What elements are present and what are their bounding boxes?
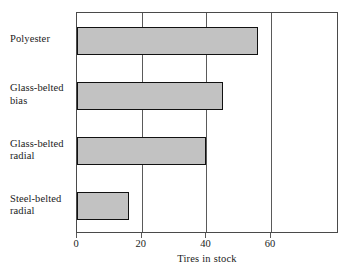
- category-label-glass-belted-radial: Glass-beltedradial: [10, 138, 74, 163]
- tick-label-20: 20: [126, 238, 156, 250]
- category-label-line: radial: [10, 150, 74, 163]
- plot-area: [76, 12, 338, 233]
- bar-glass-belted-radial: [77, 137, 206, 165]
- category-label-polyester: Polyester: [10, 33, 74, 46]
- bar-steel-belted-radial: [77, 192, 129, 220]
- tick-label-0: 0: [61, 238, 91, 250]
- x-axis-title: Tires in stock: [76, 253, 338, 264]
- category-label-line: Steel-belted: [10, 193, 74, 206]
- bar-polyester: [77, 27, 258, 55]
- category-label-line: Polyester: [10, 33, 74, 46]
- tick-label-40: 40: [190, 238, 220, 250]
- category-label-line: Glass-belted: [10, 82, 74, 95]
- category-label-line: bias: [10, 95, 74, 108]
- category-label-steel-belted-radial: Steel-beltedradial: [10, 193, 74, 218]
- bar-glass-belted-bias: [77, 82, 223, 110]
- bar-chart: Polyester Glass-beltedbias Glass-beltedr…: [0, 0, 352, 272]
- category-label-glass-belted-bias: Glass-beltedbias: [10, 82, 74, 107]
- gridline-60: [271, 13, 272, 232]
- category-label-line: Glass-belted: [10, 138, 74, 151]
- tick-label-60: 60: [255, 238, 285, 250]
- category-label-line: radial: [10, 205, 74, 218]
